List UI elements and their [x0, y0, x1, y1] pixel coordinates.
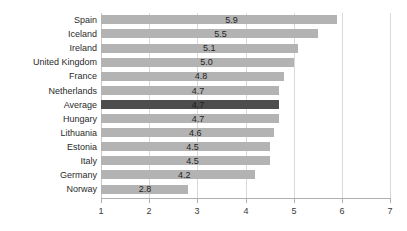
- category-label: Iceland: [0, 27, 97, 41]
- tick-mark: [149, 199, 150, 203]
- x-tick-label: 6: [332, 205, 352, 217]
- x-tick-label: 4: [236, 205, 256, 217]
- tick-mark: [246, 199, 247, 203]
- x-tick-label: 3: [187, 205, 207, 217]
- bar-value-label: 4.5: [173, 140, 199, 154]
- category-label: Netherlands: [0, 84, 97, 98]
- bar-value-label: 5.0: [187, 55, 213, 69]
- bar-chart: Spain5.9Iceland5.5Ireland5.1United Kingd…: [0, 0, 407, 231]
- category-label: Hungary: [0, 112, 97, 126]
- bar-row: Lithuania4.6: [0, 126, 407, 140]
- bar-row: Ireland5.1: [0, 41, 407, 55]
- bar-value-label: 4.2: [164, 168, 190, 182]
- bar-value-label: 2.8: [125, 182, 151, 196]
- bar-value-label: 4.7: [178, 112, 204, 126]
- bar-row: Netherlands4.7: [0, 84, 407, 98]
- category-label: Germany: [0, 168, 97, 182]
- x-tick-label: 2: [139, 205, 159, 217]
- bar-value-label: 4.5: [173, 154, 199, 168]
- bar-row: Norway2.8: [0, 182, 407, 196]
- bar-value-label: 5.9: [212, 13, 238, 27]
- tick-mark: [342, 199, 343, 203]
- x-tick-label: 5: [284, 205, 304, 217]
- tick-mark: [294, 199, 295, 203]
- x-tick-label: 7: [380, 205, 400, 217]
- bar-row: Iceland5.5: [0, 27, 407, 41]
- bar-row: Estonia4.5: [0, 140, 407, 154]
- category-label: Estonia: [0, 140, 97, 154]
- tick-mark: [101, 199, 102, 203]
- x-tick-label: 1: [91, 205, 111, 217]
- category-label: France: [0, 69, 97, 83]
- category-label: Norway: [0, 182, 97, 196]
- bar-value-label: 5.1: [190, 41, 216, 55]
- bar-value-label: 4.7: [178, 84, 204, 98]
- bar-value-label: 4.8: [181, 69, 207, 83]
- bar-value-label: 5.5: [201, 27, 227, 41]
- category-label: Lithuania: [0, 126, 97, 140]
- bar-row: United Kingdom5.0: [0, 55, 407, 69]
- bar-value-label: 4.6: [176, 126, 202, 140]
- tick-mark: [197, 199, 198, 203]
- bar-row: Hungary4.7: [0, 112, 407, 126]
- tick-mark: [390, 199, 391, 203]
- bar-row: France4.8: [0, 69, 407, 83]
- category-label: Spain: [0, 13, 97, 27]
- category-label: United Kingdom: [0, 55, 97, 69]
- category-label: Average: [0, 98, 97, 112]
- bar-row: Germany4.2: [0, 168, 407, 182]
- bar-row: Italy4.5: [0, 154, 407, 168]
- category-label: Italy: [0, 154, 97, 168]
- bar-row: Spain5.9: [0, 13, 407, 27]
- bar-value-label: 4.7: [178, 98, 204, 112]
- category-label: Ireland: [0, 41, 97, 55]
- bar-row: Average4.7: [0, 98, 407, 112]
